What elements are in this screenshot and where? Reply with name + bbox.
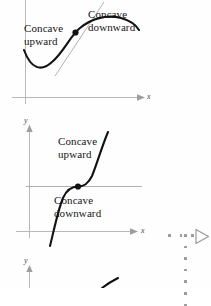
y-axis-arrowhead	[26, 125, 32, 133]
x-axis-label: x	[147, 92, 151, 101]
concave-downward-line2: downward	[88, 21, 135, 33]
guide-dot	[184, 234, 187, 237]
figure-concavity-sine: Concave upward Concave downward x	[0, 0, 180, 112]
x-axis-arrowhead	[130, 228, 138, 234]
inflection-point-dot	[72, 29, 78, 35]
concave-downward-label: Concave downward	[88, 8, 135, 33]
dotted-guide-vertical	[184, 234, 187, 306]
concave-downward-label: Concave downward	[54, 194, 101, 219]
concave-downward-line2: downward	[54, 207, 101, 219]
x-axis-arrowhead	[137, 94, 145, 100]
concave-upward-line1: Concave	[58, 135, 97, 147]
play-triangle-icon[interactable]	[194, 228, 210, 245]
y-axis-label: y	[24, 258, 28, 265]
concave-upward-label: Concave upward	[58, 135, 97, 160]
guide-dot	[184, 269, 187, 272]
concave-upward-line2: upward	[24, 35, 58, 47]
guide-dot	[180, 234, 183, 237]
y-axis-label: y	[24, 116, 28, 125]
guide-dot	[184, 257, 187, 260]
inflection-point-dot	[75, 183, 81, 189]
guide-dot	[184, 292, 187, 295]
concave-upward-line1: Concave	[24, 22, 63, 34]
concave-upward-line2: upward	[58, 148, 92, 160]
x-axis-label: x	[141, 226, 145, 235]
y-axis-arrowhead	[26, 265, 32, 272]
concave-downward-line1: Concave	[54, 194, 93, 206]
dotted-guide-horizontal	[168, 234, 194, 237]
partial-curve	[102, 278, 118, 288]
guide-dot	[168, 234, 171, 237]
figure-concavity-cubic: Concave upward Concave downward x y	[0, 118, 180, 246]
expand-triangle-button[interactable]	[194, 228, 210, 249]
figure-partial-bottom: y	[0, 258, 180, 288]
guide-dot	[184, 280, 187, 283]
guide-dot	[184, 246, 187, 249]
concave-upward-label: Concave upward	[24, 22, 63, 47]
concave-downward-line1: Concave	[88, 8, 127, 20]
